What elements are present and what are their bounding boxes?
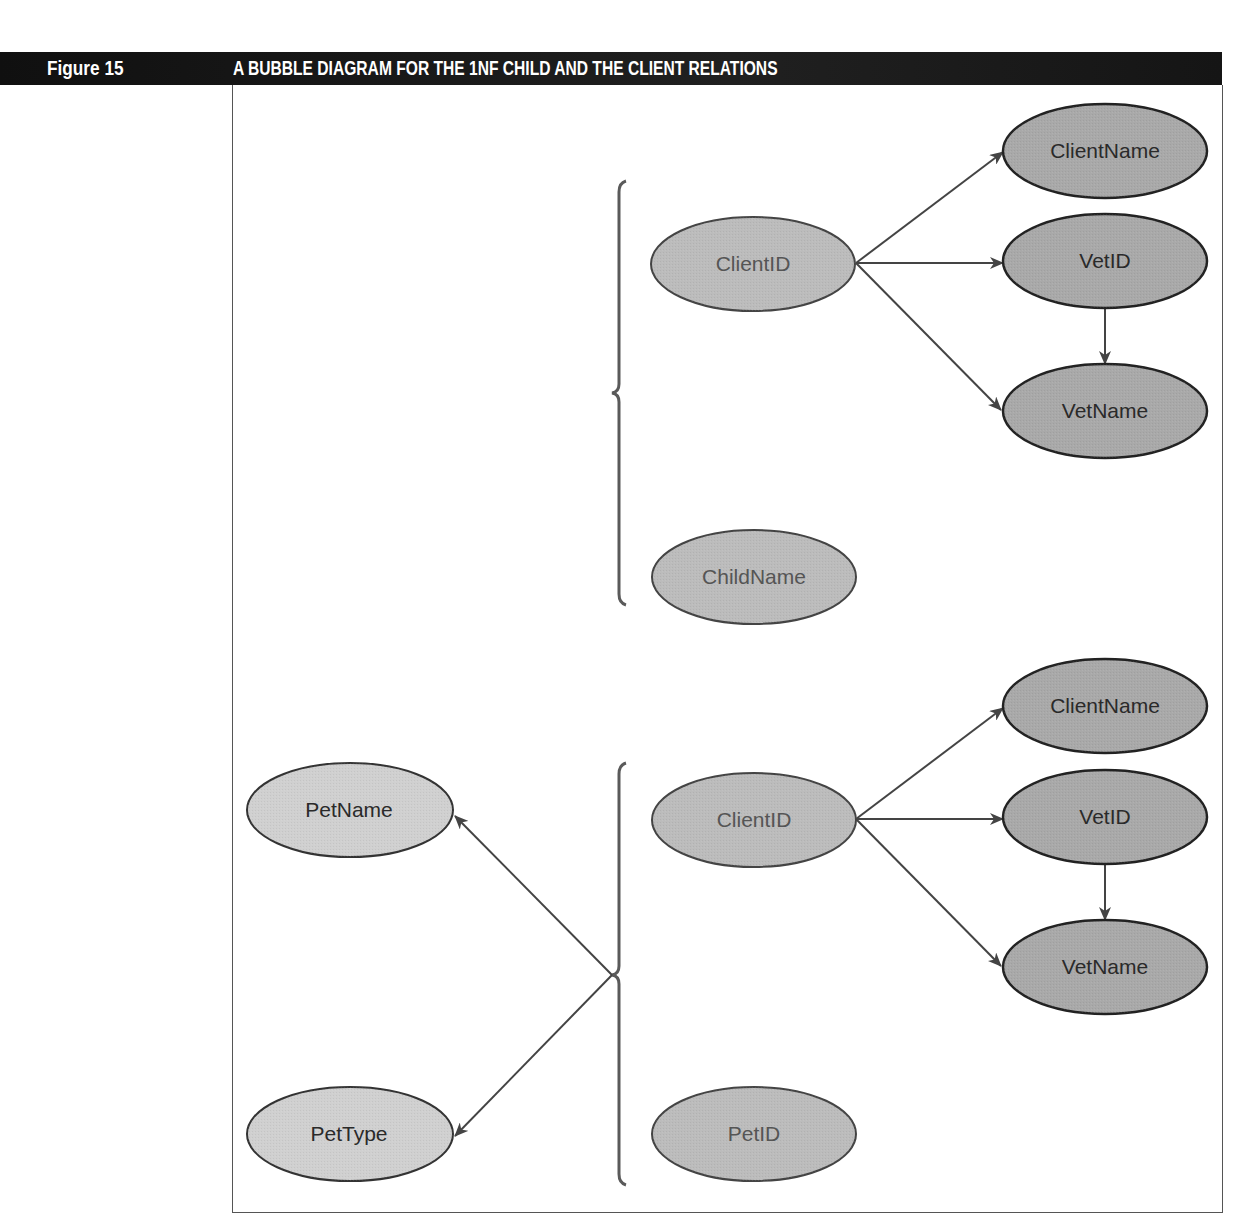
bubble-label: ChildName xyxy=(702,565,806,588)
composite-key-brace-icon xyxy=(612,763,626,1185)
bubble-label: PetName xyxy=(305,798,393,821)
bubble-label: VetName xyxy=(1062,399,1148,422)
bubble-vet-id: VetID xyxy=(1003,770,1207,864)
bubble-client-name: ClientName xyxy=(1003,659,1207,753)
child-relation-group: ClientID ClientName VetID VetName ChildN… xyxy=(612,104,1207,624)
client-relation-group: PetName PetType ClientID ClientName VetI… xyxy=(247,659,1207,1185)
bubble-vet-id: VetID xyxy=(1003,214,1207,308)
arrow-clientid-to-clientname xyxy=(856,708,1003,819)
bubble-label: VetID xyxy=(1079,249,1130,272)
bubble-label: ClientName xyxy=(1050,139,1160,162)
bubble-client-id: ClientID xyxy=(651,217,855,311)
arrow-clientid-to-vetname xyxy=(856,819,1001,966)
bubble-pet-name: PetName xyxy=(247,763,453,857)
bubble-label: ClientID xyxy=(716,252,791,275)
bubble-label: VetName xyxy=(1062,955,1148,978)
arrow-key-to-pettype xyxy=(455,975,612,1136)
bubble-pet-id: PetID xyxy=(652,1087,856,1181)
bubble-vet-name: VetName xyxy=(1003,920,1207,1014)
bubble-label: PetID xyxy=(728,1122,781,1145)
bubble-label: ClientName xyxy=(1050,694,1160,717)
bubble-pet-type: PetType xyxy=(247,1087,453,1181)
bubble-client-id: ClientID xyxy=(652,773,856,867)
composite-key-brace-icon xyxy=(612,181,626,605)
bubble-label: ClientID xyxy=(717,808,792,831)
arrow-clientid-to-vetname xyxy=(856,263,1001,410)
bubble-diagram: ClientID ClientName VetID VetName ChildN… xyxy=(0,0,1259,1230)
bubble-client-name: ClientName xyxy=(1003,104,1207,198)
arrow-key-to-petname xyxy=(455,816,612,975)
bubble-label: VetID xyxy=(1079,805,1130,828)
bubble-child-name: ChildName xyxy=(652,530,856,624)
bubble-vet-name: VetName xyxy=(1003,364,1207,458)
bubble-label: PetType xyxy=(310,1122,387,1145)
arrow-clientid-to-clientname xyxy=(856,152,1003,263)
